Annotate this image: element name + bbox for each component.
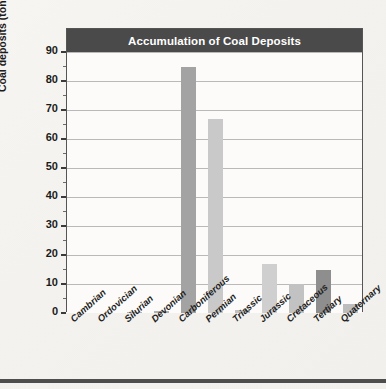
y-tick-label: 20 xyxy=(32,247,58,259)
chart-title: Accumulation of Coal Deposits xyxy=(67,29,362,52)
y-tick-label: 70 xyxy=(32,102,58,114)
y-tick-label: 40 xyxy=(32,189,58,201)
y-tick-label: 90 xyxy=(32,44,58,56)
chart-plot-box: Accumulation of Coal Deposits xyxy=(66,28,363,312)
x-axis-labels: CambrianOrdovicianSilurianDevonianCarbon… xyxy=(0,314,386,389)
y-tick-label: 80 xyxy=(32,73,58,85)
bar-series xyxy=(67,52,362,313)
y-tick-label: 50 xyxy=(32,160,58,172)
bottom-rule xyxy=(0,379,386,383)
y-tick-label: 10 xyxy=(32,276,58,288)
y-tick-label: 60 xyxy=(32,131,58,143)
bar xyxy=(181,67,196,314)
y-tick-label: 30 xyxy=(32,218,58,230)
chart-figure: Coal deposits (tons per year) 0102030405… xyxy=(0,0,386,389)
plot-area xyxy=(67,52,362,313)
y-axis-title: Coal deposits (tons per year) xyxy=(0,0,8,92)
